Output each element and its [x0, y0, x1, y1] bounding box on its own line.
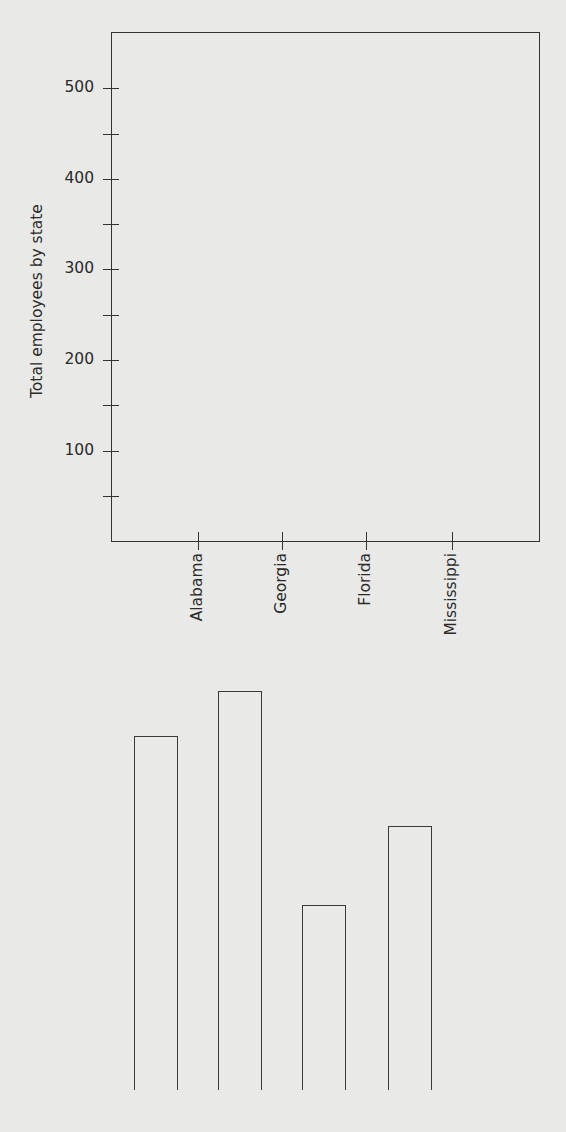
y-tick-label: 400	[34, 170, 94, 186]
x-tick	[452, 532, 453, 550]
y-tick-label: 300	[34, 260, 94, 276]
cutout-bar-florida[interactable]	[302, 905, 346, 1090]
y-axis-label: Total employees by state	[29, 204, 45, 398]
y-tick-label: 200	[34, 351, 94, 367]
y-tick	[103, 269, 119, 270]
y-tick	[103, 88, 119, 89]
y-tick	[103, 405, 119, 406]
y-tick	[103, 496, 119, 497]
y-tick	[103, 360, 119, 361]
x-tick-label: Florida	[357, 553, 373, 606]
x-tick-label: Mississippi	[443, 553, 459, 636]
y-tick-label: 100	[34, 442, 94, 458]
x-tick-label: Georgia	[273, 553, 289, 614]
x-tick	[366, 532, 367, 550]
x-tick-label: Alabama	[189, 553, 205, 621]
y-tick-label: 500	[34, 79, 94, 95]
y-tick	[103, 224, 119, 225]
x-tick	[198, 532, 199, 550]
y-tick	[103, 179, 119, 180]
y-tick	[103, 134, 119, 135]
chart-plot-area	[111, 32, 540, 542]
y-tick	[103, 315, 119, 316]
y-tick	[103, 451, 119, 452]
cutout-bar-georgia[interactable]	[218, 691, 262, 1090]
x-tick	[282, 532, 283, 550]
cutout-bar-alabama[interactable]	[134, 736, 178, 1090]
cutout-bar-mississippi[interactable]	[388, 826, 432, 1090]
